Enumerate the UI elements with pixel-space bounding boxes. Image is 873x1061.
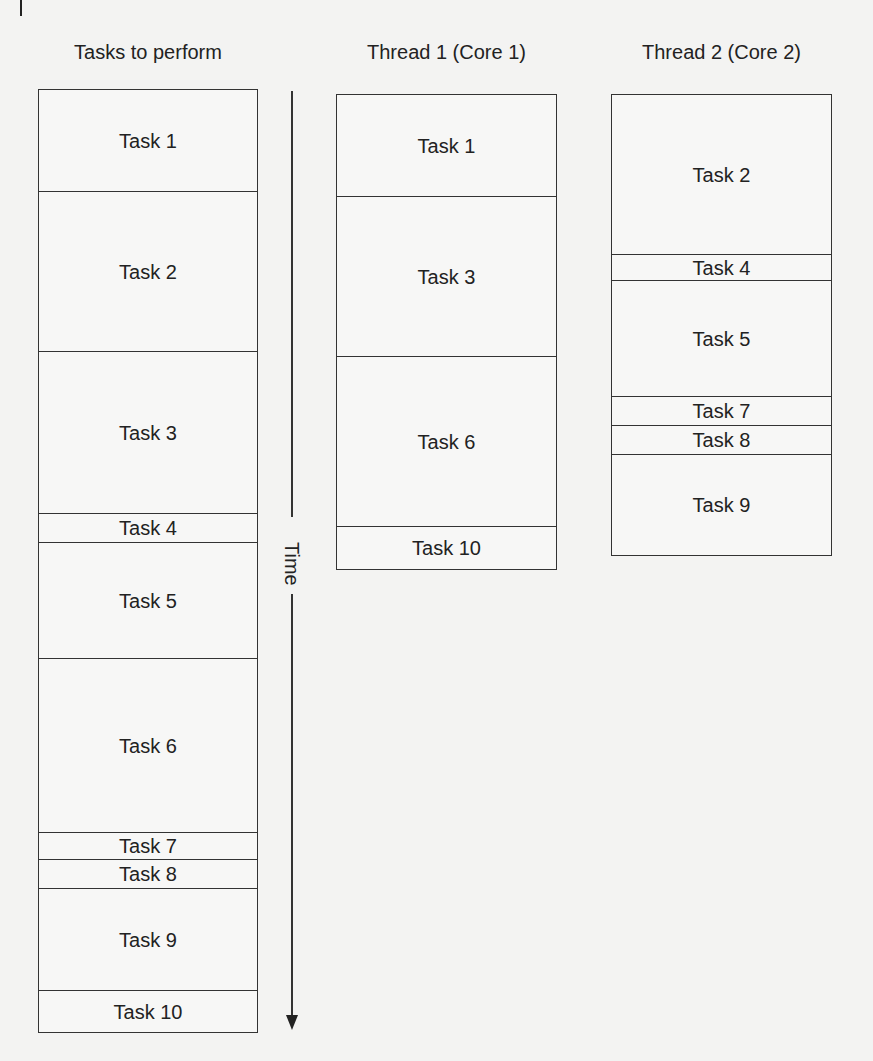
task-block: Task 4 [39,513,257,542]
task-block: Task 8 [39,859,257,888]
task-label: Task 7 [693,401,751,421]
task-block: Task 2 [39,191,257,351]
task-block: Task 6 [39,658,257,832]
task-label: Task 9 [693,495,751,515]
task-block: Task 5 [612,280,831,396]
task-block: Task 3 [39,351,257,513]
task-label: Task 3 [418,267,476,287]
task-label: Task 4 [119,518,177,538]
task-label: Task 10 [114,1002,183,1022]
task-block: Task 1 [337,95,556,196]
task-block: Task 1 [39,90,257,191]
column-title-thread-2: Thread 2 (Core 2) [611,40,832,64]
thread-2-column: Task 2 Task 4 Task 5 Task 7 Task 8 Task … [611,94,832,556]
task-label: Task 8 [693,430,751,450]
task-block: Task 6 [337,356,556,526]
task-label: Task 1 [418,136,476,156]
column-title-thread-1: Thread 1 (Core 1) [336,40,557,64]
time-axis-line [291,91,293,517]
task-block: Task 9 [39,888,257,990]
task-block: Task 7 [39,832,257,859]
task-label: Task 5 [693,329,751,349]
task-block: Task 9 [612,454,831,555]
task-block: Task 3 [337,196,556,356]
arrow-down-icon [286,1015,298,1030]
task-label: Task 8 [119,864,177,884]
task-label: Task 6 [119,736,177,756]
task-label: Task 9 [119,930,177,950]
task-block: Task 4 [612,254,831,280]
task-block: Task 2 [612,95,831,254]
task-label: Task 6 [418,432,476,452]
corner-mark [20,0,22,16]
task-block: Task 7 [612,396,831,425]
thread-1-column: Task 1 Task 3 Task 6 Task 10 [336,94,557,570]
column-title-tasks-to-perform: Tasks to perform [38,40,258,64]
task-block: Task 10 [337,526,556,569]
time-axis-line [291,594,293,1016]
task-label: Task 2 [693,165,751,185]
task-label: Task 5 [119,591,177,611]
task-label: Task 4 [693,258,751,278]
time-axis-label: Time [280,542,304,572]
task-label: Task 7 [119,836,177,856]
task-block: Task 10 [39,990,257,1032]
task-label: Task 3 [119,423,177,443]
task-label: Task 10 [412,538,481,558]
tasks-to-perform-column: Task 1 Task 2 Task 3 Task 4 Task 5 Task … [38,89,258,1033]
task-label: Task 1 [119,131,177,151]
task-block: Task 5 [39,542,257,658]
task-label: Task 2 [119,262,177,282]
task-block: Task 8 [612,425,831,454]
